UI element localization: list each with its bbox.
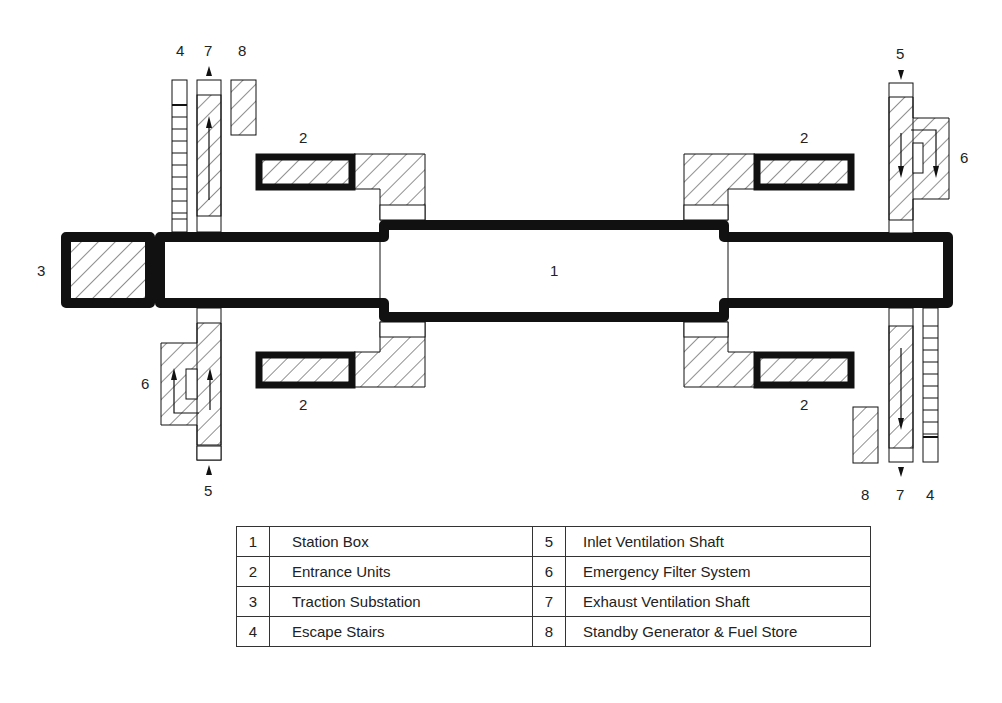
legend-table: 1 Station Box 5 Inlet Ventilation Shaft … — [236, 526, 871, 647]
legend-row: 3 Traction Substation 7 Exhaust Ventilat… — [237, 587, 871, 617]
legend-row: 4 Escape Stairs 8 Standby Generator & Fu… — [237, 617, 871, 647]
label-generator-left: 8 — [238, 43, 246, 58]
entrance-unit-top-right — [684, 154, 851, 220]
label-filter-right: 6 — [960, 150, 968, 165]
label-entrance-bottom-left: 2 — [299, 397, 307, 412]
escape-stairs-right — [923, 308, 938, 462]
standby-generator-left — [231, 80, 256, 135]
label-entrance-bottom-right: 2 — [800, 397, 808, 412]
entrance-unit-top-left — [259, 154, 425, 220]
label-entrance-top-left: 2 — [299, 130, 307, 145]
traction-substation — [66, 237, 150, 303]
station-layout-diagram — [0, 0, 1002, 520]
label-exhaust-shaft-left: 7 — [204, 43, 212, 58]
legend-number: 8 — [533, 617, 566, 647]
label-inlet-shaft-left: 5 — [204, 483, 212, 498]
label-filter-left: 6 — [141, 376, 149, 391]
legend-number: 7 — [533, 587, 566, 617]
exhaust-shaft-right — [889, 308, 913, 477]
legend-label: Escape Stairs — [270, 617, 533, 647]
label-inlet-shaft-right: 5 — [896, 46, 904, 61]
legend-number: 4 — [237, 617, 270, 647]
legend-number: 6 — [533, 557, 566, 587]
legend-number: 3 — [237, 587, 270, 617]
legend-row: 2 Entrance Units 6 Emergency Filter Syst… — [237, 557, 871, 587]
label-generator-right: 8 — [861, 487, 869, 502]
label-exhaust-shaft-right: 7 — [896, 487, 904, 502]
entrance-unit-bottom-left — [259, 322, 425, 387]
legend-label: Entrance Units — [270, 557, 533, 587]
legend-label: Standby Generator & Fuel Store — [566, 617, 871, 647]
legend-row: 1 Station Box 5 Inlet Ventilation Shaft — [237, 527, 871, 557]
legend-label: Station Box — [270, 527, 533, 557]
standby-generator-right — [853, 407, 878, 463]
label-traction-substation: 3 — [37, 263, 45, 278]
exhaust-shaft-left — [197, 66, 221, 232]
legend-label: Exhaust Ventilation Shaft — [566, 587, 871, 617]
legend-number: 1 — [237, 527, 270, 557]
label-escape-stairs-left: 4 — [176, 43, 184, 58]
legend-number: 5 — [533, 527, 566, 557]
label-entrance-top-right: 2 — [800, 130, 808, 145]
legend-number: 2 — [237, 557, 270, 587]
escape-stairs-left — [172, 80, 187, 232]
legend-label: Traction Substation — [270, 587, 533, 617]
entrance-unit-bottom-right — [684, 322, 851, 387]
label-escape-stairs-right: 4 — [926, 487, 934, 502]
legend-label: Emergency Filter System — [566, 557, 871, 587]
legend-label: Inlet Ventilation Shaft — [566, 527, 871, 557]
label-station-box: 1 — [550, 263, 558, 278]
